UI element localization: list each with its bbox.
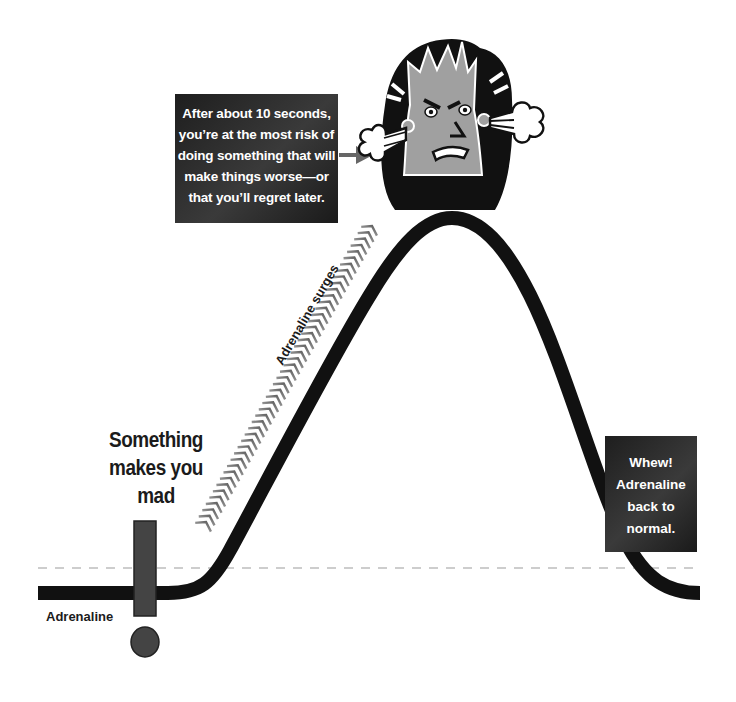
exclamation-mark-icon xyxy=(131,521,159,657)
upward-chevron-stream-icon xyxy=(195,226,377,532)
trigger-line: mad xyxy=(101,482,211,510)
angry-face-icon xyxy=(359,39,543,210)
trigger-label: Something makes you mad xyxy=(101,426,211,510)
callout-line: that you’ll regret later. xyxy=(175,187,338,208)
callout-line: back to xyxy=(605,496,697,518)
callout-line: normal. xyxy=(605,518,697,540)
callout-line: After about 10 seconds, xyxy=(175,103,338,124)
recovery-callout: Whew! Adrenaline back to normal. xyxy=(605,436,697,552)
callout-line: doing something that will xyxy=(175,145,338,166)
callout-line: Adrenaline xyxy=(605,474,697,496)
trigger-line: makes you xyxy=(101,454,211,482)
callout-line: Whew! xyxy=(605,452,697,474)
callout-line: make things worse—or xyxy=(175,166,338,187)
adrenaline-diagram: After about 10 seconds, you’re at the mo… xyxy=(0,0,736,702)
baseline-adrenaline-label: Adrenaline xyxy=(46,609,113,624)
trigger-line: Something xyxy=(101,426,211,454)
diagram-graphics xyxy=(0,0,736,702)
callout-line: you’re at the most risk of xyxy=(175,124,338,145)
peak-warning-callout: After about 10 seconds, you’re at the mo… xyxy=(175,94,338,223)
